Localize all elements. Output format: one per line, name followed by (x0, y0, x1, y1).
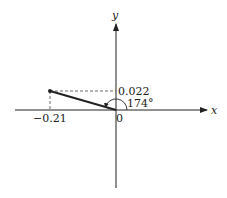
origin-label: 0 (116, 112, 123, 125)
angle-label: 174° (127, 97, 154, 110)
vector-endpoint (48, 89, 52, 93)
vector-line (50, 91, 116, 110)
y-axis-label: y (111, 9, 119, 22)
x-component-label: −0.21 (33, 112, 67, 125)
vector-diagram: y x 0 −0.21 0.022 174° (0, 0, 227, 198)
x-axis-label: x (211, 104, 218, 117)
